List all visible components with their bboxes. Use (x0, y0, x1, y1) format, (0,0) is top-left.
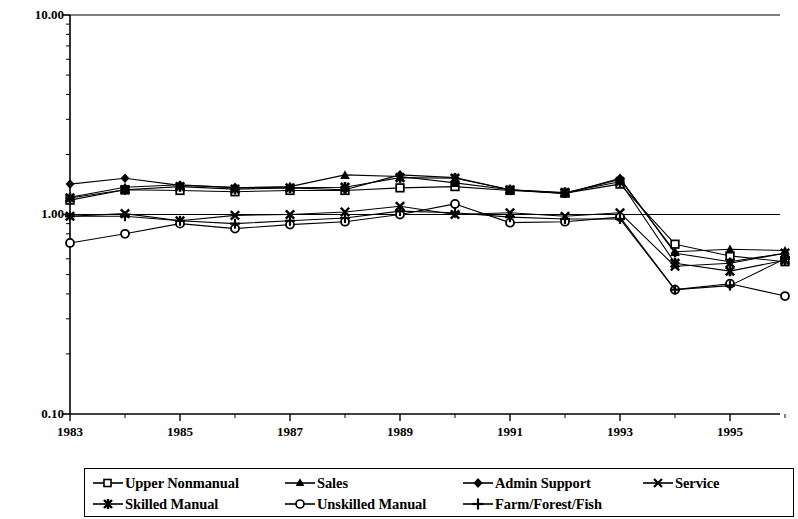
legend-item-upper-nonmanual[interactable]: Upper Nonmanual (93, 472, 239, 494)
legend-item-skilled-manual[interactable]: Skilled Manual (93, 493, 218, 515)
chart-page: 10.00 1.00 0.10 1983 1985 1987 1989 1991… (0, 0, 798, 519)
chart-plot-area: 10.00 1.00 0.10 1983 1985 1987 1989 1991… (0, 0, 798, 462)
x-axis-label-1983: 1983 (40, 424, 100, 440)
y-axis-label-top: 10.00 (2, 7, 64, 23)
legend-item-farm-forest-fish[interactable]: Farm/Forest/Fish (463, 493, 602, 515)
series-upper-nonmanual (66, 180, 789, 265)
filled-triangle-icon (285, 475, 315, 491)
y-axis-label-mid: 1.00 (2, 206, 64, 222)
legend-item-admin-support[interactable]: Admin Support (463, 472, 591, 494)
chart-legend: Upper Nonmanual Sales Admin Support Serv… (84, 468, 794, 517)
x-axis-label-1991: 1991 (480, 424, 540, 440)
legend-label: Upper Nonmanual (123, 475, 239, 492)
series-sales (65, 170, 790, 256)
legend-label: Sales (315, 475, 348, 492)
series-farm-forest-fish (65, 206, 790, 295)
legend-label: Service (673, 475, 719, 492)
legend-item-unskilled-manual[interactable]: Unskilled Manual (285, 493, 426, 515)
y-axis-label-bottom: 0.10 (2, 406, 64, 422)
legend-row-2: Skilled Manual Unskilled Manual Farm/For… (85, 493, 793, 517)
open-square-icon (93, 475, 123, 491)
line-chart-svg (0, 0, 798, 462)
legend-label: Admin Support (493, 475, 591, 492)
open-circle-icon (285, 496, 315, 512)
filled-star-icon (93, 496, 123, 512)
x-axis-label-1985: 1985 (150, 424, 210, 440)
cross-x-icon (643, 475, 673, 491)
x-axis-label-1989: 1989 (370, 424, 430, 440)
x-axis-label-1987: 1987 (260, 424, 320, 440)
legend-item-service[interactable]: Service (643, 472, 719, 494)
legend-item-sales[interactable]: Sales (285, 472, 348, 494)
x-axis-label-1995: 1995 (700, 424, 760, 440)
plus-icon (463, 496, 493, 512)
x-axis-label-1993: 1993 (590, 424, 650, 440)
legend-label: Skilled Manual (123, 496, 218, 513)
filled-diamond-icon (463, 475, 493, 491)
legend-label: Farm/Forest/Fish (493, 496, 602, 513)
legend-label: Unskilled Manual (315, 496, 426, 513)
